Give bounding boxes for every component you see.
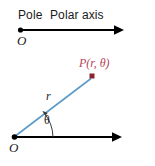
figure-caption bbox=[6, 160, 149, 166]
top-origin-label: O bbox=[17, 34, 26, 47]
polar-axis-arrowhead bbox=[114, 25, 124, 35]
origin-dot bbox=[12, 134, 18, 140]
point-p-marker bbox=[90, 74, 95, 79]
bottom-angle-diagram-group bbox=[12, 74, 122, 142]
initial-side-arrowhead bbox=[112, 132, 122, 142]
polar-coordinate-figure: Pole Polar axis O P(r, θ) r θ O bbox=[0, 0, 155, 166]
point-p-label: P(r, θ) bbox=[79, 57, 110, 69]
radius-label: r bbox=[46, 90, 51, 102]
polar-axis-label: Polar axis bbox=[50, 9, 104, 21]
top-polar-axis-group bbox=[18, 25, 124, 35]
radius-ray-line bbox=[14, 79, 91, 138]
pole-origin-dot bbox=[18, 27, 23, 32]
pole-label: Pole bbox=[18, 9, 42, 21]
angle-theta-label: θ bbox=[44, 114, 50, 126]
bottom-origin-label: O bbox=[9, 141, 18, 154]
figure-graphics bbox=[0, 0, 155, 166]
